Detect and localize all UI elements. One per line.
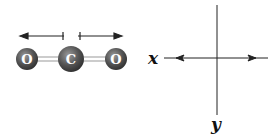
y-axis-label: y: [210, 114, 222, 134]
dipole-arrow-right: [78, 32, 122, 40]
axis-horizontal: [164, 55, 268, 61]
atom-carbon: C: [58, 46, 84, 72]
co2-diagram: O C O x y: [0, 0, 280, 137]
atom-oxygen-left: O: [16, 48, 38, 70]
x-axis-label: x: [147, 48, 159, 68]
atom-label: O: [21, 52, 32, 67]
atom-label: O: [110, 52, 121, 67]
atom-oxygen-right: O: [105, 48, 127, 70]
dipole-arrow-left: [20, 32, 64, 40]
atom-label: C: [66, 52, 76, 67]
